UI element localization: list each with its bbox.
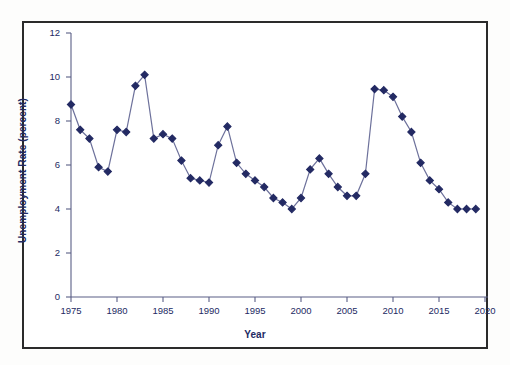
x-tick-label: 1985	[146, 305, 180, 316]
data-point-marker	[205, 179, 212, 186]
x-tick-label: 2000	[284, 305, 318, 316]
data-point-marker	[371, 86, 378, 93]
x-axis-title: Year	[205, 329, 305, 340]
data-point-marker	[325, 170, 332, 177]
data-point-marker	[463, 205, 470, 212]
data-point-marker	[472, 205, 479, 212]
x-tick-label: 1990	[192, 305, 226, 316]
data-point-marker	[113, 126, 120, 133]
y-tick-label: 0	[38, 291, 60, 302]
x-tick-label: 2015	[422, 305, 456, 316]
x-tick-label: 1980	[100, 305, 134, 316]
y-tick-label: 2	[38, 247, 60, 258]
y-tick-label: 6	[38, 159, 60, 170]
data-point-marker	[215, 142, 222, 149]
x-tick-label: 2010	[376, 305, 410, 316]
data-point-marker	[95, 164, 102, 171]
data-point-marker	[408, 128, 415, 135]
data-point-marker	[178, 157, 185, 164]
chart-figure: Unemployment Rate (percent) Year 0246810…	[0, 0, 510, 365]
data-point-marker	[104, 168, 111, 175]
data-point-marker	[67, 101, 74, 108]
data-point-marker	[196, 177, 203, 184]
data-point-marker	[399, 113, 406, 120]
plot-area: Unemployment Rate (percent) Year 0246810…	[0, 0, 510, 365]
data-point-marker	[417, 159, 424, 166]
y-axis-title: Unemployment Rate (percent)	[17, 81, 28, 261]
data-point-marker	[159, 131, 166, 138]
x-tick-label: 1995	[238, 305, 272, 316]
x-tick-label: 1975	[54, 305, 88, 316]
data-point-marker	[353, 192, 360, 199]
y-tick-label: 10	[38, 71, 60, 82]
y-tick-label: 12	[38, 27, 60, 38]
data-point-marker	[187, 175, 194, 182]
x-tick-label: 2020	[468, 305, 502, 316]
y-tick-label: 4	[38, 203, 60, 214]
series-line	[71, 75, 476, 209]
data-point-marker	[150, 135, 157, 142]
data-point-marker	[362, 170, 369, 177]
x-tick-label: 2005	[330, 305, 364, 316]
data-point-marker	[224, 123, 231, 130]
data-point-marker	[169, 135, 176, 142]
data-point-marker	[123, 128, 130, 135]
y-tick-label: 8	[38, 115, 60, 126]
